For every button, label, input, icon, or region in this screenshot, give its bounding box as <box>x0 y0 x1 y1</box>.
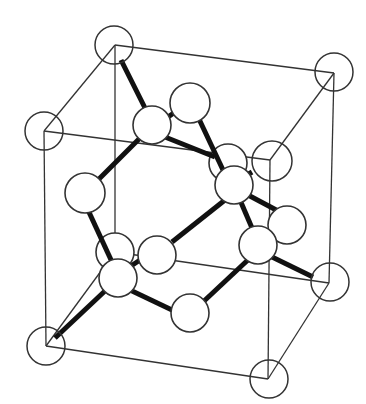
atom-corner-top-back-left <box>95 26 133 64</box>
atom-face-center-left <box>65 173 105 213</box>
atom-face-center-bottom <box>171 294 209 332</box>
edge-front-left-vertical <box>44 131 46 346</box>
bond <box>203 258 250 302</box>
edge-back-right-vertical <box>329 73 334 283</box>
atom-interior <box>239 226 277 264</box>
atom-interior <box>133 106 171 144</box>
edge-top-back <box>115 45 334 73</box>
atom-corner-bottom-back-right <box>311 263 349 301</box>
edge-front-right-vertical <box>268 160 270 379</box>
bond <box>172 200 225 242</box>
edge-top-right <box>270 73 334 160</box>
bond <box>121 60 147 112</box>
diamond-cubic-diagram <box>0 0 366 404</box>
atom-face-center-front <box>138 236 176 274</box>
edge-top-left <box>44 45 115 131</box>
atom-corner-bottom-front-right <box>250 360 288 398</box>
atom-interior <box>170 83 210 123</box>
atom-interior <box>215 166 253 204</box>
bond <box>130 290 172 310</box>
bond <box>270 256 313 277</box>
atom-corner-top-front-right <box>252 141 292 181</box>
edge-bottom-front <box>46 346 268 379</box>
atom-interior <box>99 259 137 297</box>
bond <box>240 200 252 228</box>
corner-atoms <box>25 26 353 398</box>
bond <box>55 290 106 338</box>
crystal-structure-svg <box>0 0 366 404</box>
bond <box>98 138 140 180</box>
